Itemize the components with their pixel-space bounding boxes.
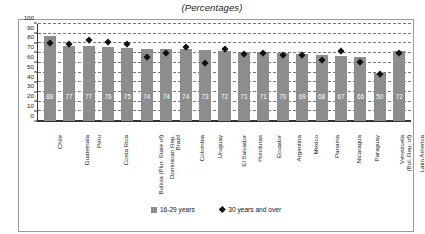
diamond-marker[interactable] [85, 37, 93, 45]
bar-slot: 76 [98, 24, 117, 121]
bar[interactable]: 67 [335, 56, 347, 121]
x-label-slot: Chile [39, 134, 58, 200]
bar[interactable]: 70 [277, 53, 289, 121]
x-label-slot: Mexico [292, 134, 311, 200]
bar-slot: 68 [312, 24, 331, 121]
plot-area: 88777776757474747372717170696867665072 [37, 24, 411, 122]
bar-value-label: 67 [335, 94, 347, 100]
bar-slot: 69 [292, 24, 311, 121]
diamond-marker[interactable] [104, 39, 112, 47]
bar-slot: 66 [351, 24, 370, 121]
y-tick-label-70: 70 [27, 44, 34, 50]
x-label-slot: Latin America [389, 134, 408, 200]
x-label-slot: Paraguay [351, 134, 370, 200]
x-label-slot: Dominican Rep. [136, 134, 155, 200]
x-label-slot: Ecuador [253, 134, 272, 200]
bar-value-label: 77 [83, 94, 95, 100]
bar[interactable]: 71 [257, 52, 269, 121]
legend-label: 16-29 years [160, 206, 195, 213]
bar[interactable]: 72 [393, 51, 405, 121]
bar-value-label: 74 [141, 94, 153, 100]
diamond-marker[interactable] [124, 41, 132, 49]
y-tick-label-60: 60 [27, 54, 34, 60]
bar-value-label: 66 [354, 94, 366, 100]
x-label-slot: Colombia [175, 134, 194, 200]
x-label-slot: Bolivia (Plur. State of) [117, 134, 136, 200]
bar-value-label: 75 [121, 94, 133, 100]
x-label-slot: Costa Rica [97, 134, 116, 200]
x-label-slot: Peru [78, 134, 97, 200]
bar-slot: 73 [195, 24, 214, 121]
x-axis-labels: ChileGuatemalaPeruCosta RicaBolivia (Plu… [18, 134, 414, 200]
bar-slot: 71 [254, 24, 273, 121]
bar-slot: 74 [176, 24, 195, 121]
bar-value-label: 76 [102, 94, 114, 100]
bar-slot: 77 [59, 24, 78, 121]
bar-slot: 50 [370, 24, 389, 121]
bar-slot: 88 [40, 24, 59, 121]
x-label-slot: Guatemala [58, 134, 77, 200]
x-axis-category-label: Latin America [418, 135, 425, 173]
x-label-slot: Argentina [273, 134, 292, 200]
diamond-swatch-icon [219, 206, 225, 212]
chart-legend: 16-29 years30 years and over [18, 206, 414, 213]
square-swatch-icon [151, 207, 157, 213]
x-label-slot: Uruguay [195, 134, 214, 200]
bar-slot: 75 [118, 24, 137, 121]
bar[interactable]: 75 [121, 48, 133, 121]
bar-value-label: 88 [44, 94, 56, 100]
y-tick-label-10: 10 [27, 103, 34, 109]
bar-value-label: 74 [180, 94, 192, 100]
bar-value-label: 69 [296, 94, 308, 100]
bar[interactable]: 76 [102, 47, 114, 121]
bar-series: 88777776757474747372717170696867665072 [38, 24, 411, 121]
bar[interactable]: 74 [180, 49, 192, 121]
bar[interactable]: 68 [316, 55, 328, 121]
bar-value-label: 71 [257, 94, 269, 100]
bar-value-label: 72 [393, 94, 405, 100]
y-tick-label-30: 30 [27, 83, 34, 89]
bar[interactable]: 71 [238, 52, 250, 121]
bar-slot: 74 [157, 24, 176, 121]
bar[interactable]: 66 [354, 57, 366, 121]
bar-value-label: 68 [316, 94, 328, 100]
bar-value-label: 50 [374, 94, 386, 100]
bar[interactable]: 88 [44, 36, 56, 121]
bar[interactable]: 77 [83, 46, 95, 121]
bar[interactable]: 50 [374, 73, 386, 122]
plot-area-wrapper: 0102030405060708090100 88777776757474747… [18, 20, 414, 134]
chart-title: (Percentages) [0, 2, 424, 13]
legend-item[interactable]: 16-29 years [151, 206, 195, 213]
bar-value-label: 71 [238, 94, 250, 100]
bar[interactable]: 72 [218, 51, 230, 121]
bar-value-label: 74 [160, 94, 172, 100]
bar-slot: 74 [137, 24, 156, 121]
bar-slot: 72 [390, 24, 409, 121]
x-label-slot: Brazil [156, 134, 175, 200]
legend-item[interactable]: 30 years and over [219, 206, 281, 213]
bar[interactable]: 74 [160, 49, 172, 121]
y-tick-label-80: 80 [27, 34, 34, 40]
y-tick-label-50: 50 [27, 64, 34, 70]
bar-slot: 70 [273, 24, 292, 121]
bar-value-label: 77 [63, 94, 75, 100]
y-tick-label-20: 20 [27, 93, 34, 99]
y-axis-ticks: 0102030405060708090100 [18, 24, 37, 122]
x-label-slot: Honduras [234, 134, 253, 200]
x-label-slot: El Salvador [214, 134, 233, 200]
x-label-slot: Nicaragua [331, 134, 350, 200]
bar[interactable]: 69 [296, 54, 308, 121]
x-label-slot: Panama [312, 134, 331, 200]
bar-value-label: 72 [218, 94, 230, 100]
legend-label: 30 years and over [228, 206, 281, 213]
bar-value-label: 73 [199, 94, 211, 100]
y-tick-label-0: 0 [31, 113, 34, 119]
bar[interactable]: 77 [63, 46, 75, 121]
bar-value-label: 70 [277, 94, 289, 100]
bar-slot: 71 [234, 24, 253, 121]
x-label-slot: Venezuela(Bol. Rep. of) [370, 134, 389, 200]
bar-slot: 72 [215, 24, 234, 121]
diamond-marker[interactable] [337, 47, 345, 55]
bar-slot: 67 [331, 24, 350, 121]
